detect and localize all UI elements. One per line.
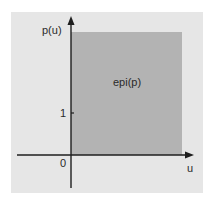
region-label: epi(p) xyxy=(113,76,141,88)
epigraph-region xyxy=(71,32,182,155)
y-tick-label: 1 xyxy=(60,107,66,119)
y-axis-label: p(u) xyxy=(42,24,62,36)
epigraph-diagram: p(u) u 0 1 epi(p) xyxy=(0,0,216,205)
x-axis-label: u xyxy=(187,162,193,174)
origin-label: 0 xyxy=(60,157,66,169)
